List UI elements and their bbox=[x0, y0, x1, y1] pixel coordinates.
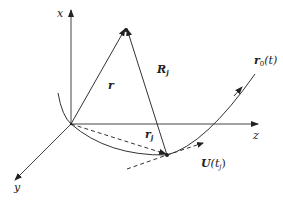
vector-r-j-sub: j bbox=[151, 133, 154, 142]
source-point bbox=[165, 153, 169, 157]
x-axis-label: x bbox=[57, 8, 63, 19]
tangent-label-main: U bbox=[201, 157, 211, 170]
vector-R-j-main: R bbox=[157, 63, 166, 76]
vector-r bbox=[71, 29, 125, 124]
trajectory-arrow bbox=[234, 87, 242, 96]
y-axis-label: y bbox=[14, 182, 20, 193]
z-axis-label-text: z bbox=[253, 129, 259, 142]
tangent-label: U(tj) bbox=[201, 158, 226, 171]
diagram-drawing bbox=[0, 0, 283, 203]
tangent-label-open: (t bbox=[211, 157, 220, 170]
vector-R-j-label: Rj bbox=[157, 64, 169, 76]
curve-label: r0(t) bbox=[254, 55, 277, 68]
vector-r-label: r bbox=[108, 80, 114, 91]
diagram-canvas: x y z r Rj rj r0(t) U(tj) bbox=[0, 0, 283, 203]
vector-r-j-label: rj bbox=[145, 129, 153, 141]
y-axis-label-text: y bbox=[14, 181, 20, 194]
trajectory-curve bbox=[58, 74, 255, 155]
z-axis-label: z bbox=[253, 130, 259, 141]
x-axis-label-text: x bbox=[57, 7, 63, 20]
vector-R-j-sub: j bbox=[166, 68, 169, 77]
origin-point bbox=[70, 123, 72, 125]
curve-label-arg: (t) bbox=[264, 54, 277, 67]
y-axis bbox=[15, 124, 71, 180]
vector-r-label-text: r bbox=[108, 79, 114, 92]
tangent-label-close: ) bbox=[221, 157, 225, 170]
tangent-line-back bbox=[127, 155, 167, 169]
observation-point bbox=[124, 28, 128, 32]
